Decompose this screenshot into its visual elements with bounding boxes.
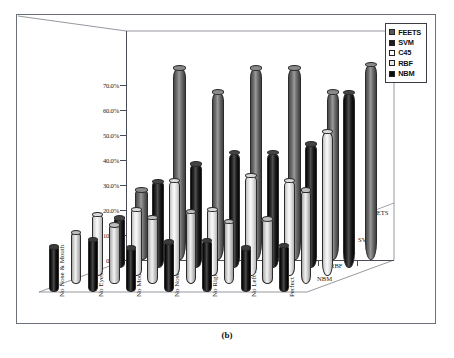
- figure-container: 70.0% 60.0% 50.0% 40.0% 30.0% 20.0% 10.0…: [0, 0, 454, 358]
- bar-cap: [152, 179, 164, 184]
- bar-body: [262, 219, 273, 284]
- bar-body: [49, 247, 59, 292]
- bar-rbf-5: [262, 219, 273, 284]
- bar-cap: [186, 209, 197, 214]
- bar-body: [202, 241, 212, 292]
- bar-cap: [288, 65, 300, 70]
- plot-frame: 70.0% 60.0% 50.0% 40.0% 30.0% 20.0% 10.0…: [16, 14, 436, 324]
- bar-cap: [241, 245, 251, 250]
- bar-body: [147, 217, 158, 284]
- bar-cap: [250, 65, 262, 70]
- legend: FEETS SVM C45 RBF NBM: [385, 23, 427, 83]
- bar-cap: [49, 244, 59, 249]
- bar-body: [322, 132, 333, 276]
- bar-rbf-3: [186, 211, 197, 284]
- legend-item[interactable]: SVM: [389, 37, 421, 47]
- bars-layer: [17, 15, 437, 325]
- x-category-label: No Eyes: [97, 273, 105, 297]
- bar-feets-6: [365, 64, 377, 260]
- bar-body: [71, 233, 82, 284]
- bar-nbm-5: [241, 248, 251, 292]
- x-axis-tick: [318, 261, 319, 266]
- bar-rbf-0: [71, 233, 82, 284]
- legend-swatch-feets: [389, 29, 395, 35]
- x-category-label: No Nose & Mouth: [58, 245, 66, 297]
- bar-body: [241, 248, 251, 292]
- legend-label: FEETS: [398, 28, 421, 37]
- bar-body: [126, 248, 136, 292]
- bar-body: [279, 246, 289, 292]
- figure-caption: (b): [0, 330, 454, 340]
- bar-cap: [114, 215, 126, 220]
- bar-body: [343, 92, 355, 268]
- bar-cap: [135, 187, 147, 192]
- bar-body: [164, 242, 174, 292]
- x-category-label: No Nose: [173, 272, 181, 297]
- bar-nbm-6: [279, 246, 289, 292]
- bar-cap: [88, 237, 98, 242]
- bar-body: [365, 64, 377, 260]
- bar-rbf-4: [224, 221, 235, 284]
- bar-cap: [126, 245, 136, 250]
- legend-item[interactable]: C45: [389, 48, 421, 58]
- bar-cap: [131, 207, 142, 212]
- bar-cap: [305, 141, 317, 146]
- legend-swatch-nbm: [389, 71, 395, 77]
- bar-nbm-3: [164, 242, 174, 292]
- bar-nbm-4: [202, 241, 212, 292]
- bar-body: [88, 239, 98, 292]
- bar-cap: [190, 161, 202, 166]
- legend-label: C45: [398, 48, 411, 57]
- legend-swatch-c45: [389, 50, 395, 56]
- depth-label-nbm: NBM: [317, 275, 332, 282]
- legend-swatch-rbf: [389, 60, 395, 66]
- bar-nbm-0: [49, 247, 59, 292]
- bar-nbm-2: [126, 248, 136, 292]
- legend-item[interactable]: FEETS: [389, 27, 421, 37]
- bar-cap: [164, 239, 174, 244]
- x-category-label: Perfect: [288, 277, 296, 297]
- legend-label: RBF: [398, 59, 413, 68]
- bar-body: [109, 225, 120, 284]
- bar-cap: [109, 222, 120, 227]
- bar-rbf-2: [147, 217, 158, 284]
- legend-swatch-svm: [389, 40, 395, 46]
- legend-item[interactable]: NBM: [389, 69, 421, 79]
- legend-label: SVM: [398, 38, 413, 47]
- bar-cap: [212, 89, 224, 94]
- bar-svm-6: [343, 92, 355, 268]
- bar-body: [224, 221, 235, 284]
- bar-body: [186, 211, 197, 284]
- bar-cap: [365, 62, 377, 67]
- legend-item[interactable]: RBF: [389, 58, 421, 68]
- bar-cap: [262, 216, 273, 221]
- bar-rbf-1: [109, 225, 120, 284]
- bar-cap: [327, 89, 339, 94]
- bar-body: [301, 190, 312, 284]
- legend-label: NBM: [398, 69, 414, 78]
- bar-nbm-1: [88, 239, 98, 292]
- bar-cap: [173, 65, 185, 70]
- bar-c45-6: [322, 132, 333, 276]
- bar-cap: [301, 187, 312, 192]
- x-axis-tick: [357, 261, 358, 266]
- bar-rbf-6: [301, 190, 312, 284]
